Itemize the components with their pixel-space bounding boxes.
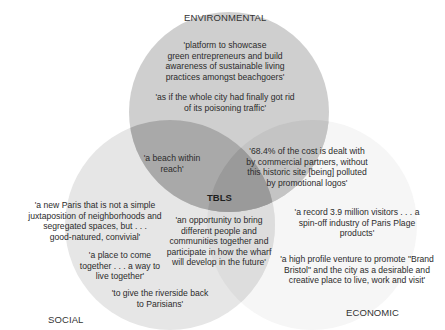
quote-economic-2: 'a high profile venture to promote "Bran… (272, 254, 442, 286)
quote-economic-1: 'a record 3.9 million visitors . . . a s… (282, 207, 432, 239)
quote-environmental-economic: '68.4% of the cost is dealt with by comm… (232, 146, 382, 188)
quote-social-economic: 'an opportunity to bring different peopl… (163, 215, 275, 268)
social-label: SOCIAL (48, 314, 83, 325)
quote-environmental-1: 'platform to showcase green entrepreneur… (145, 40, 305, 82)
quote-social-1: 'a new Paris that is not a simple juxtap… (15, 200, 175, 242)
quote-social-2: 'a place to come together . . . a way to… (70, 250, 170, 282)
quote-environmental-2: 'as if the whole city had finally got ri… (135, 92, 315, 113)
quote-environmental-social: 'a beach within reach' (132, 153, 212, 174)
quote-social-3: 'to give the riverside back to Parisians… (100, 288, 220, 309)
environmental-label: ENVIRONMENTAL (184, 12, 266, 23)
economic-label: ECONOMIC (346, 307, 399, 318)
tbls-center-label: TBLS (207, 192, 232, 203)
